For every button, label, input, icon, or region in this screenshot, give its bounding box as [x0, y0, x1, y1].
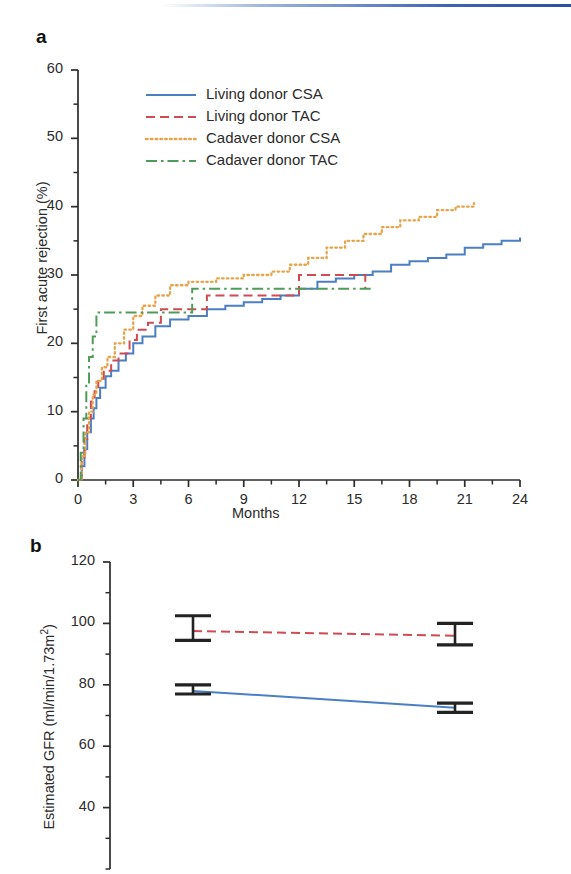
- panel-b-y-tick-label: 60: [61, 736, 95, 752]
- legend-label-1: Living donor TAC: [206, 107, 321, 124]
- panel-b-y-tick-label: 120: [61, 552, 95, 568]
- legend-label-3: Cadaver donor TAC: [206, 151, 338, 168]
- panel-a-y-tick-label: 40: [29, 197, 63, 213]
- panel-a-series-line-0: [78, 237, 520, 480]
- panel-b-axes: [103, 562, 110, 869]
- panel-b-marks: [175, 616, 473, 713]
- legend-label-0: Living donor CSA: [206, 85, 323, 102]
- panel-a-x-tick-label: 24: [507, 491, 533, 507]
- panel-a-y-tick-label: 10: [29, 402, 63, 418]
- panel-a-series-line-3: [78, 289, 373, 480]
- panel-b-series-line-0: [193, 631, 455, 636]
- panel-a-x-tick-label: 12: [286, 491, 312, 507]
- panel-a-x-tick-label: 18: [397, 491, 423, 507]
- panel-a-x-tick-label: 9: [231, 491, 257, 507]
- legend-label-2: Cadaver donor CSA: [206, 129, 340, 146]
- panel-a-x-tick-label: 21: [452, 491, 478, 507]
- panel-a-x-tick-label: 6: [176, 491, 202, 507]
- panel-b-series-line-1: [193, 691, 455, 708]
- panel-a-y-tick-label: 0: [29, 470, 63, 486]
- panel-b-y-tick-label: 80: [61, 675, 95, 691]
- panel-a-series-line-2: [78, 203, 474, 480]
- panel-b-y-tick-label: 40: [61, 798, 95, 814]
- panel-a-y-tick-label: 50: [29, 128, 63, 144]
- panel-a-y-tick-label: 30: [29, 265, 63, 281]
- panel-a-legend-lines: [146, 95, 196, 161]
- panel-a-y-tick-label: 20: [29, 333, 63, 349]
- panel-a-curves: [78, 203, 520, 480]
- panel-b-y-tick-label: 100: [61, 613, 95, 629]
- panel-a-series-line-1: [78, 275, 365, 480]
- panel-a-y-tick-label: 60: [29, 60, 63, 76]
- panel-a-x-tick-label: 0: [65, 491, 91, 507]
- panel-a-x-tick-label: 15: [341, 491, 367, 507]
- panel-a-x-tick-label: 3: [120, 491, 146, 507]
